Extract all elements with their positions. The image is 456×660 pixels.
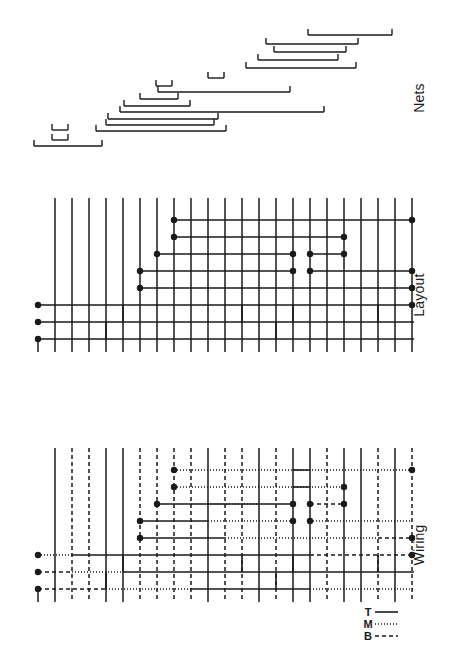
net-span xyxy=(208,72,224,78)
terminal-dot xyxy=(341,484,347,490)
net-span xyxy=(120,106,324,112)
terminal-dot xyxy=(290,518,296,524)
terminal-dot xyxy=(307,501,313,507)
channel-routing-figure: NetsLayoutWiring TMB xyxy=(0,0,456,660)
terminal-dot xyxy=(154,251,160,257)
net-span xyxy=(246,62,356,68)
terminal-dot xyxy=(290,501,296,507)
net-span xyxy=(52,124,68,130)
panel-labels: NetsLayoutWiring xyxy=(411,83,427,565)
terminal-dot xyxy=(35,569,41,575)
terminal-dot xyxy=(137,268,143,274)
terminal-dot xyxy=(341,501,347,507)
terminal-dot xyxy=(35,552,41,558)
terminal-dot xyxy=(290,251,296,257)
terminal-dot xyxy=(171,234,177,240)
terminal-dot xyxy=(171,217,177,223)
nets-panel xyxy=(34,29,392,146)
net-span xyxy=(266,38,358,44)
panel-label-layout: Layout xyxy=(411,273,427,316)
terminal-dot xyxy=(171,467,177,473)
layout-panel xyxy=(35,198,415,352)
terminal-dot xyxy=(35,302,41,308)
terminal-dot xyxy=(409,268,415,274)
wiring-terminal-pins xyxy=(38,448,412,602)
net-span xyxy=(108,113,218,119)
terminal-dot xyxy=(171,484,177,490)
terminal-dot xyxy=(137,285,143,291)
net-span xyxy=(106,119,214,125)
terminal-dot xyxy=(341,234,347,240)
wiring-panel xyxy=(35,448,415,602)
layer-legend: TMB xyxy=(363,606,398,642)
terminal-dot xyxy=(341,251,347,257)
panel-label-nets: Nets xyxy=(411,83,427,113)
layout-terminal-pins xyxy=(38,198,412,352)
figure-container: NetsLayoutWiring TMB xyxy=(0,0,456,660)
net-span xyxy=(52,134,68,140)
legend-key-M: M xyxy=(363,618,372,630)
terminal-dot xyxy=(307,518,313,524)
terminal-dot xyxy=(137,518,143,524)
net-span xyxy=(158,86,290,92)
terminal-dot xyxy=(409,217,415,223)
net-span xyxy=(96,125,226,131)
terminal-dot xyxy=(307,268,313,274)
terminal-dot xyxy=(35,336,41,342)
terminal-dot xyxy=(409,467,415,473)
terminal-dot xyxy=(35,319,41,325)
net-span xyxy=(156,80,172,86)
layout-routing-tracks xyxy=(38,220,414,339)
net-span xyxy=(34,140,102,146)
terminal-dot xyxy=(290,268,296,274)
legend-key-B: B xyxy=(364,630,372,642)
terminal-dot xyxy=(154,501,160,507)
terminal-dot xyxy=(35,586,41,592)
terminal-dot xyxy=(137,535,143,541)
net-span xyxy=(124,100,190,106)
terminal-dot xyxy=(307,251,313,257)
net-span xyxy=(258,54,338,60)
wiring-routing-tracks xyxy=(38,470,414,589)
net-span xyxy=(308,29,392,35)
net-span xyxy=(274,46,346,52)
net-span xyxy=(140,93,178,99)
panel-label-wiring: Wiring xyxy=(411,525,427,566)
legend-key-T: T xyxy=(365,606,372,618)
